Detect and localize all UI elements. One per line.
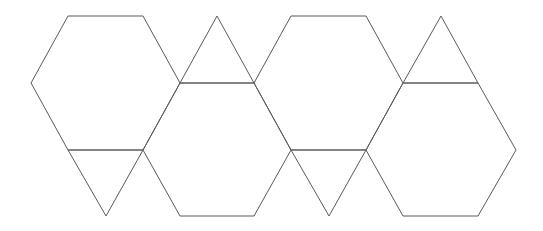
- triangle-up-2: [403, 16, 478, 83]
- polyhedron-net: [0, 0, 543, 231]
- hexagon-2: [143, 83, 291, 216]
- hexagon-1: [31, 16, 180, 150]
- diagram-canvas: [0, 0, 543, 231]
- hexagon-4: [366, 83, 516, 216]
- triangle-down-1: [68, 150, 143, 216]
- triangle-down-2: [291, 150, 366, 216]
- triangle-up-1: [180, 16, 254, 83]
- hexagon-3: [254, 16, 403, 150]
